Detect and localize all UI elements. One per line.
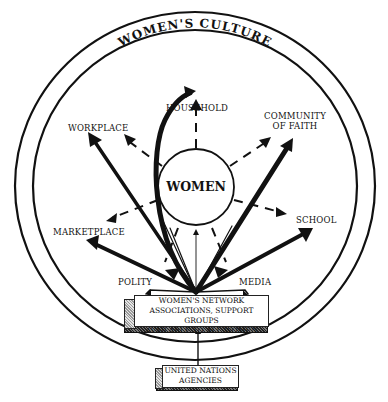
center-label-women: WOMEN	[158, 181, 234, 194]
convergence-point	[194, 290, 199, 295]
diagram-graphics: WOMEN'S CULTURE	[0, 0, 388, 402]
network-box-line3: AVAILABLE TO ALL WOMEN	[135, 326, 268, 336]
un-box: UNITED NATIONS AGENCIES	[162, 365, 239, 388]
label-marketplace: MARKETPLACE	[53, 228, 125, 237]
label-workplace: WORKPLACE	[68, 124, 128, 133]
label-household: HOUSEHOLD	[162, 104, 232, 113]
label-community-line2: OF FAITH	[255, 122, 335, 131]
diagram-canvas: WOMEN'S CULTURE	[0, 0, 388, 402]
un-box-line1: UNITED NATIONS	[163, 366, 238, 376]
label-media: MEDIA	[239, 278, 271, 287]
label-school: SCHOOL	[296, 216, 337, 225]
network-box-line2: ASSOCIATIONS, SUPPORT GROUPS	[135, 306, 268, 326]
label-community-line1: COMMUNITY	[255, 112, 335, 121]
label-polity: POLITY	[118, 278, 152, 287]
network-box-line1: WOMEN'S NETWORK	[135, 296, 268, 306]
un-box-line2: AGENCIES	[163, 376, 238, 386]
network-box: WOMEN'S NETWORK ASSOCIATIONS, SUPPORT GR…	[134, 295, 269, 327]
